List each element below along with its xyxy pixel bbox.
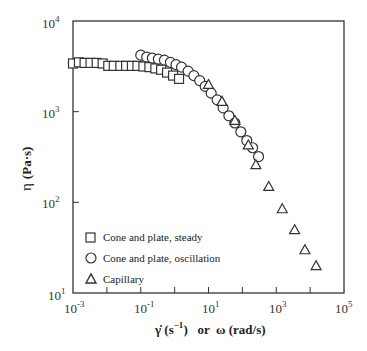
x-tick-label-1e-3: 10-3 (64, 299, 85, 316)
x-tick-label-1e3: 103 (269, 299, 287, 316)
x-axis-title: γ̇ (s−1) or ω (rad/s) (154, 320, 266, 337)
legend-label-oscillation: Cone and plate, oscillation (103, 252, 221, 264)
y-axis-title: η(Pa·s) (18, 147, 34, 191)
square-marker (175, 74, 184, 83)
x-tick-label-1e-1: 10-1 (134, 299, 155, 316)
legend-label-capillary: Capillary (103, 273, 144, 285)
triangle-marker (290, 225, 300, 234)
y-tick-label-1e3: 103 (42, 104, 60, 121)
legend-triangle-icon (86, 274, 96, 283)
legend-square-icon (86, 233, 95, 242)
x-tick-label-1e1: 101 (202, 299, 220, 316)
legend: Cone and plate, steady Cone and plate, o… (86, 231, 221, 285)
triangle-marker (277, 204, 287, 213)
x-tick-label-1e5: 105 (335, 299, 353, 316)
y-tick-label-1e4: 104 (42, 14, 60, 31)
triangle-marker (311, 261, 321, 270)
legend-circle-icon (86, 253, 96, 263)
y-tick-label-1e2: 102 (42, 194, 60, 211)
axis-ticks (73, 112, 310, 293)
circle-marker (236, 127, 246, 137)
legend-label-steady: Cone and plate, steady (103, 231, 203, 243)
viscosity-chart: 104 103 102 101 10-3 10-1 101 103 105 γ̇… (0, 0, 367, 351)
y-tick-label-1e1: 101 (48, 286, 66, 303)
triangle-marker (300, 245, 310, 254)
triangle-marker (264, 181, 274, 190)
